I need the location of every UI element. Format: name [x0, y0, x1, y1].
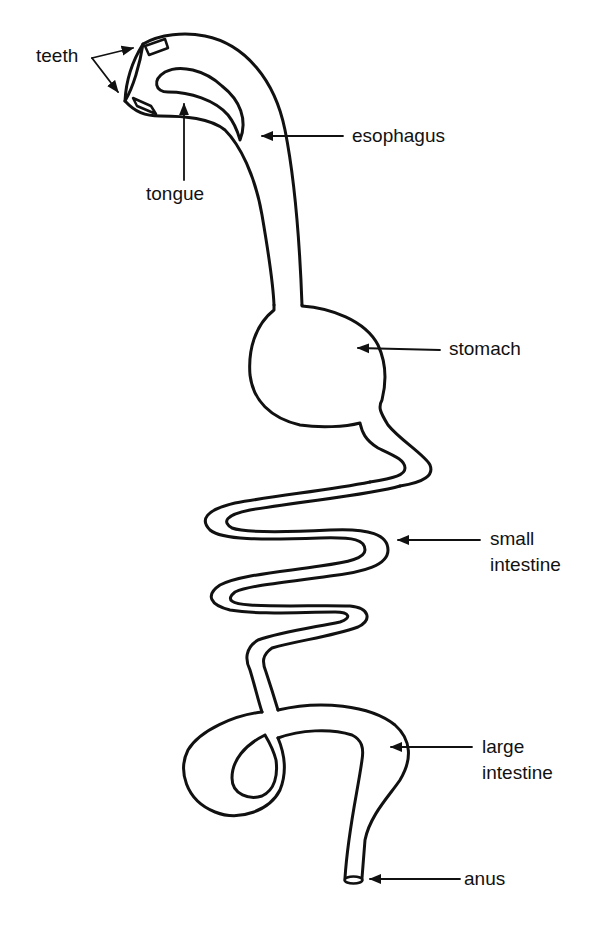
- digestive-system-diagram: teeth tongue esophagus stomach small int…: [0, 0, 610, 927]
- label-esophagus: esophagus: [352, 125, 445, 147]
- label-small-intestine-line2: intestine: [490, 554, 561, 576]
- label-tongue: tongue: [146, 183, 204, 205]
- pointer-arrows: [92, 48, 480, 879]
- anus-opening: [345, 877, 363, 884]
- label-large-intestine-line2: intestine: [482, 762, 553, 784]
- label-large-intestine-line1: large: [482, 736, 524, 758]
- label-teeth: teeth: [36, 45, 78, 67]
- diagram-drawing: [0, 0, 610, 927]
- mouth: [125, 34, 302, 305]
- large-intestine-shape: [184, 705, 409, 878]
- label-small-intestine-line1: small: [490, 528, 534, 550]
- stomach-shape: [250, 305, 431, 486]
- label-anus: anus: [464, 868, 505, 890]
- label-stomach: stomach: [449, 338, 521, 360]
- tongue-shape: [157, 68, 243, 140]
